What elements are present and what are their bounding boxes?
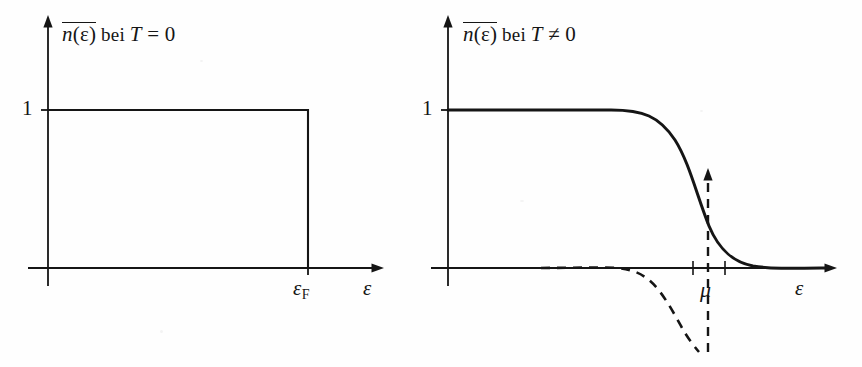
right-mu-marker [703,168,712,352]
panel-t-equals-zero: n(ε) bei T = 0 1 εF ε [0,0,431,367]
left-x-axis [28,263,384,272]
right-y-axis [443,15,452,286]
left-plot-axes-and-curve [0,0,431,367]
left-y-tick-label-1: 1 [22,98,33,119]
left-x-tick-label-epsilon-f: εF [293,278,310,302]
right-x-axis-label: ε [795,278,803,299]
left-panel-title: n(ε) bei T = 0 [62,22,175,45]
right-fermi-curve [448,110,828,268]
fermi-occupation-figure: n(ε) bei T = 0 1 εF ε [0,0,862,367]
right-derivative-dashed-curve [541,267,699,352]
panel-t-not-equals-zero: n(ε) bei T ≠ 0 1 μ ε [431,0,862,367]
right-y-tick-label-1: 1 [422,98,433,119]
right-plot-axes-and-curve [431,0,862,367]
left-y-axis [43,15,52,286]
left-x-axis-label: ε [363,278,371,299]
right-title-quantity: n(ε) [463,22,497,45]
right-panel-title: n(ε) bei T ≠ 0 [463,22,576,45]
left-title-quantity: n(ε) [62,22,96,45]
left-step-curve [48,110,308,268]
right-x-tick-label-mu: μ [700,279,711,301]
